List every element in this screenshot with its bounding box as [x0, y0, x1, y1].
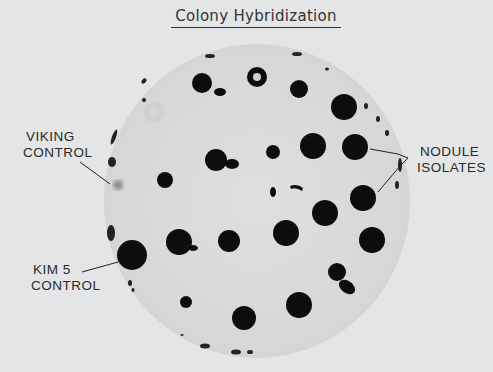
kim5-control-label: KIM 5 CONTROL: [31, 262, 101, 294]
kim5-control-line2: CONTROL: [31, 278, 101, 294]
viking-control-line2: CONTROL: [23, 145, 93, 161]
kim5-control-line1: KIM 5: [31, 262, 101, 278]
nodule-isolates-label: NODULE ISOLATES: [417, 144, 486, 176]
figure-title: Colony Hybridization: [171, 7, 341, 28]
nodule-isolates-line1: NODULE: [417, 144, 486, 160]
nodule-isolates-line2: ISOLATES: [417, 160, 486, 176]
viking-control-label: VIKING CONTROL: [23, 129, 93, 161]
petri-plate-image: [0, 0, 493, 372]
viking-control-line1: VIKING: [23, 129, 93, 145]
colony-hybridization-figure: Colony Hybridization VIKING CONTROL KIM …: [0, 0, 493, 372]
